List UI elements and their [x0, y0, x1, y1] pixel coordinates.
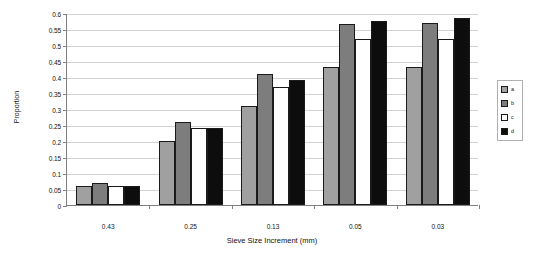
bar-a-0.43[interactable] [76, 186, 92, 205]
bar-b-0.13[interactable] [257, 74, 273, 205]
legend-item-c[interactable]: c [501, 114, 519, 121]
bar-group [67, 14, 149, 205]
bar-group [149, 14, 231, 205]
y-tick-label: 0.6 [52, 11, 61, 18]
bar-c-0.05[interactable] [355, 39, 371, 205]
y-axis-title: Proportion [13, 91, 20, 123]
bar-c-0.43[interactable] [108, 186, 124, 205]
legend-label: c [511, 115, 514, 121]
x-tick-mark [149, 205, 150, 209]
legend: abcd [497, 80, 523, 141]
y-tick-label: 0.05 [49, 187, 61, 194]
y-tick-label: 0.45 [49, 59, 61, 66]
legend-swatch-icon [501, 86, 508, 93]
legend-item-b[interactable]: b [501, 100, 519, 107]
y-tick-label: 0.2 [52, 139, 61, 146]
legend-swatch-icon [501, 114, 508, 121]
bar-d-0.03[interactable] [454, 18, 470, 205]
y-tick-label: 0 [57, 203, 61, 210]
x-tick-mark [314, 205, 315, 209]
legend-item-d[interactable]: d [501, 128, 519, 135]
x-tick-label: 0.05 [349, 223, 362, 230]
y-tick-label: 0.55 [49, 27, 61, 34]
bar-d-0.05[interactable] [371, 21, 387, 205]
x-tick-label: 0.03 [431, 223, 444, 230]
bar-b-0.43[interactable] [92, 183, 108, 205]
x-tick-label: 0.13 [267, 223, 280, 230]
bar-c-0.13[interactable] [273, 87, 289, 205]
y-tick-label: 0.3 [52, 107, 61, 114]
bar-c-0.03[interactable] [438, 39, 454, 205]
bar-d-0.25[interactable] [207, 128, 223, 205]
x-tick-mark [397, 205, 398, 209]
bar-c-0.25[interactable] [191, 128, 207, 205]
bar-a-0.03[interactable] [406, 67, 422, 205]
bar-d-0.43[interactable] [124, 186, 140, 205]
legend-item-a[interactable]: a [501, 86, 519, 93]
y-tick-mark [63, 206, 67, 207]
y-tick-label: 0.35 [49, 91, 61, 98]
bar-group [397, 14, 479, 205]
chart-screenshot: Proportion 00.050.10.150.20.250.30.350.4… [0, 0, 539, 262]
y-tick-label: 0.1 [52, 171, 61, 178]
x-tick-mark [479, 205, 480, 209]
legend-swatch-icon [501, 128, 508, 135]
legend-label: a [511, 87, 514, 93]
legend-swatch-icon [501, 100, 508, 107]
legend-label: d [511, 129, 514, 135]
bar-d-0.13[interactable] [289, 80, 305, 205]
bar-group [314, 14, 396, 205]
bar-a-0.05[interactable] [323, 67, 339, 205]
legend-label: b [511, 101, 514, 107]
y-tick-label: 0.25 [49, 123, 61, 130]
bar-b-0.03[interactable] [422, 23, 438, 205]
y-tick-label: 0.4 [52, 75, 61, 82]
bar-group [232, 14, 314, 205]
bars-layer [67, 14, 478, 205]
x-tick-label: 0.25 [184, 223, 197, 230]
x-tick-label: 0.43 [102, 223, 115, 230]
bar-a-0.25[interactable] [159, 141, 175, 205]
y-tick-label: 0.15 [49, 155, 61, 162]
y-tick-label: 0.5 [52, 43, 61, 50]
x-tick-mark [232, 205, 233, 209]
bar-b-0.25[interactable] [175, 122, 191, 205]
plot-area: 00.050.10.150.20.250.30.350.40.450.50.55… [66, 14, 478, 206]
x-axis-title: Sieve Size Increment (mm) [227, 236, 317, 245]
bar-a-0.13[interactable] [241, 106, 257, 205]
bar-b-0.05[interactable] [339, 24, 355, 205]
